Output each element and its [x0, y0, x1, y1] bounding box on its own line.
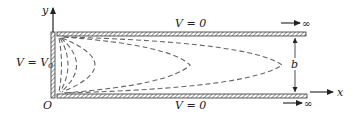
top-plate-label: V = 0 — [175, 17, 206, 30]
equipotential-4 — [62, 38, 95, 92]
equipotential-6 — [64, 37, 282, 93]
infinity-bottom-label: ∞ — [304, 98, 312, 109]
equipotential-5 — [63, 37, 190, 93]
origin-label: O — [43, 99, 52, 112]
bottom-plate — [57, 94, 307, 98]
infinity-top-label: ∞ — [302, 18, 310, 29]
top-plate — [57, 32, 306, 36]
slot-diagram: y V = 0 V = 0 V = V0 O b ∞ ∞ x — [0, 0, 356, 117]
equipotential-lines — [59, 37, 282, 93]
gap-label: b — [291, 58, 298, 71]
bottom-plate-label: V = 0 — [175, 99, 206, 112]
left-plate-label: V = V0 — [16, 56, 53, 70]
equipotential-3 — [61, 38, 77, 92]
y-axis-label: y — [41, 4, 49, 17]
equipotential-1 — [59, 38, 62, 92]
x-axis-label: x — [337, 86, 344, 99]
